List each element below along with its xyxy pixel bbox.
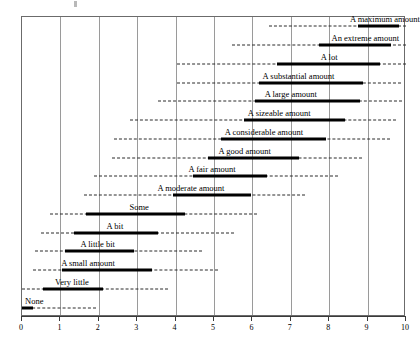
x-tick: [136, 316, 137, 321]
x-tick: [175, 316, 176, 321]
plot-area: A maximum amountAn extreme amountA lotA …: [21, 16, 405, 316]
x-tick: [290, 316, 291, 321]
row-label: A substantial amount: [263, 72, 335, 81]
range-bar: [358, 25, 399, 28]
range-bar: [277, 62, 380, 65]
chart-row: A considerable amount: [22, 130, 404, 149]
top-artifact: [74, 1, 77, 7]
chart-row: A moderate amount: [22, 186, 404, 205]
chart-row: None: [22, 298, 404, 317]
row-label: A lot: [321, 53, 338, 62]
chart-row: A lot: [22, 55, 404, 74]
chart-row: A bit: [22, 223, 404, 242]
x-tick-label: 9: [365, 323, 369, 332]
range-bar: [86, 212, 185, 215]
row-label: None: [25, 297, 43, 306]
row-label: A sizeable amount: [248, 109, 311, 118]
x-tick: [367, 316, 368, 321]
x-tick-label: 2: [96, 323, 100, 332]
x-tick-label: 6: [249, 323, 253, 332]
row-label: A moderate amount: [157, 184, 224, 193]
x-tick: [405, 316, 406, 321]
chart-row: A large amount: [22, 92, 404, 111]
row-label: Very little: [55, 278, 89, 287]
row-label: A good amount: [219, 147, 271, 156]
range-bar: [221, 137, 326, 140]
x-tick-label: 5: [211, 323, 215, 332]
range-bar: [65, 250, 134, 253]
x-tick-label: 3: [134, 323, 138, 332]
chart-row: A substantial amount: [22, 73, 404, 92]
chart-row: An extreme amount: [22, 36, 404, 55]
row-label: A maximum amount: [350, 15, 420, 24]
range-bar: [43, 287, 103, 290]
range-bar: [255, 100, 360, 103]
range-bar: [208, 156, 299, 159]
x-tick: [59, 316, 60, 321]
row-label: A fair amount: [188, 165, 235, 174]
x-tick: [21, 316, 22, 321]
x-tick: [251, 316, 252, 321]
range-bar: [62, 269, 152, 272]
row-label: An extreme amount: [332, 34, 400, 43]
x-tick: [328, 316, 329, 321]
row-label: A considerable amount: [225, 128, 303, 137]
range-bar: [74, 231, 158, 234]
x-tick-label: 10: [401, 323, 409, 332]
chart-row: Very little: [22, 280, 404, 299]
x-tick-label: 0: [19, 323, 23, 332]
row-label: Some: [129, 203, 148, 212]
row-label: A bit: [107, 222, 124, 231]
range-bar: [173, 194, 251, 197]
range-bar: [244, 119, 345, 122]
x-tick-label: 1: [57, 323, 61, 332]
chart-row: A sizeable amount: [22, 111, 404, 130]
chart-row: Some: [22, 205, 404, 224]
range-bar: [259, 81, 363, 84]
x-tick-label: 4: [173, 323, 177, 332]
range-bar: [319, 44, 391, 47]
x-tick-label: 7: [288, 323, 292, 332]
range-bar: [22, 306, 33, 309]
range-bar: [193, 175, 267, 178]
x-tick: [213, 316, 214, 321]
row-label: A little bit: [80, 240, 114, 249]
x-tick: [98, 316, 99, 321]
row-label: A small amount: [61, 259, 115, 268]
row-label: A large amount: [265, 90, 317, 99]
x-tick-label: 8: [326, 323, 330, 332]
